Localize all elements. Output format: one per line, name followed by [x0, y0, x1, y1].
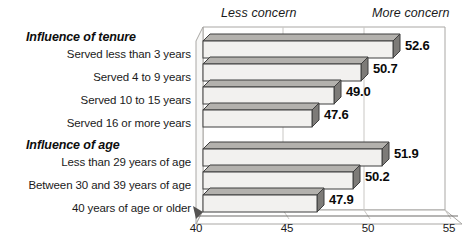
- bar-0: [203, 34, 400, 58]
- chart-container: Less concern More concern Influence of t…: [0, 0, 467, 247]
- value-label-6: 47.9: [329, 192, 354, 207]
- value-label-2: 49.0: [346, 84, 371, 99]
- value-label-3: 47.6: [324, 107, 349, 122]
- bar-6: [203, 188, 324, 212]
- value-label-4: 51.9: [394, 146, 419, 161]
- x-tick-label-40: 40: [181, 222, 211, 234]
- bar-1: [203, 57, 368, 81]
- bar-3: [203, 103, 319, 127]
- bar-2: [203, 80, 341, 104]
- bar-5: [203, 165, 360, 189]
- value-label-1: 50.7: [373, 61, 398, 76]
- x-tick-label-45: 45: [272, 222, 302, 234]
- x-tick-label-50: 50: [353, 222, 383, 234]
- value-label-0: 52.6: [405, 38, 430, 53]
- bar-4: [203, 142, 389, 166]
- x-tick-label-55: 55: [434, 222, 464, 234]
- value-label-5: 50.2: [365, 169, 390, 184]
- bars-layer: [0, 0, 467, 247]
